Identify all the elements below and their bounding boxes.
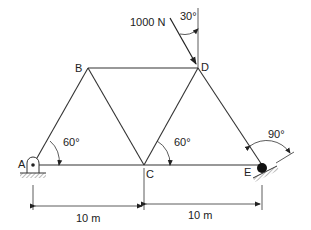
joint-label-b: B (75, 62, 82, 74)
svg-text:60°: 60° (63, 136, 80, 148)
joint-label-c: C (146, 168, 154, 180)
member-cd (144, 68, 198, 165)
load-angle-label: 30° (180, 10, 197, 22)
truss-diagram: 1000 N 30° A B C D E 60° 60° 90° 10 m 10… (0, 0, 311, 230)
load-arrow: 1000 N 30° (130, 8, 198, 68)
joint-label-d: D (201, 61, 209, 73)
member-de (198, 68, 262, 165)
angle-a: 60° (50, 136, 80, 165)
roller-support-e (253, 163, 279, 182)
svg-text:90°: 90° (268, 128, 285, 140)
force-arrow-icon (170, 18, 196, 64)
dimension-label-ce: 10 m (188, 209, 212, 221)
joint-label-e: E (244, 166, 251, 178)
member-bc (88, 68, 144, 165)
angle-arc-30 (180, 29, 198, 34)
svg-text:60°: 60° (174, 136, 191, 148)
truss-members (33, 68, 262, 165)
angle-c: 60° (157, 136, 191, 165)
member-ab (33, 68, 88, 165)
joint-label-a: A (18, 158, 26, 170)
dimension-label-ac: 10 m (76, 212, 100, 224)
load-label: 1000 N (130, 16, 166, 28)
